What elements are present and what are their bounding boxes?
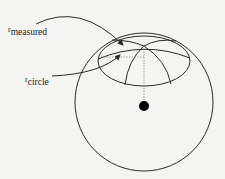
sphere-center-dot [139,101,149,111]
label-r-circle-subscript: circle [28,77,49,87]
label-r-measured: rmeasured [8,25,47,35]
label-r-measured-subscript: measured [11,27,47,37]
label-r-circle: rcircle [25,75,49,85]
measured-arrow [36,17,123,45]
cap-meridian-left [125,46,144,85]
diagram-canvas: rmeasured rcircle [0,0,225,179]
